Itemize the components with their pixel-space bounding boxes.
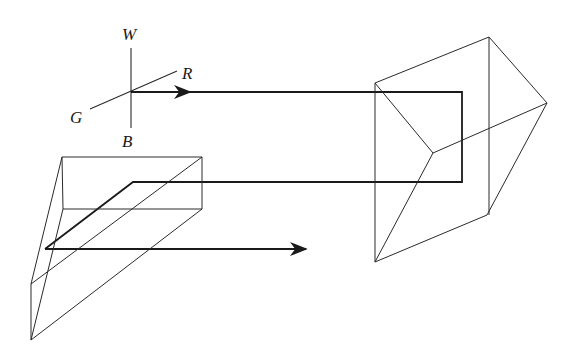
ray-segment — [45, 92, 462, 249]
left-prism-edge — [31, 209, 202, 340]
diagonal-axis — [90, 71, 177, 109]
left-prism-edge — [31, 209, 63, 340]
axis-label-w: W — [122, 25, 138, 44]
right-prism-outline — [375, 37, 547, 262]
axis-label-g: G — [70, 108, 82, 127]
light-ray-path — [45, 92, 462, 249]
right-prism-edge — [375, 153, 433, 262]
left-prism-edge — [31, 157, 202, 284]
right-prism-edge — [433, 103, 547, 153]
axis-label-b: B — [122, 132, 133, 151]
axis-label-r: R — [181, 64, 193, 83]
diagram-canvas: W R G B — [0, 0, 575, 358]
color-axes: W R G B — [70, 25, 193, 151]
right-prism — [375, 37, 547, 262]
right-prism-edge — [375, 83, 433, 153]
